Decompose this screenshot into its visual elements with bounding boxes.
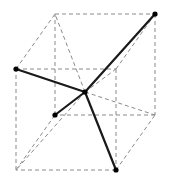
- guide-center-to-back-top-left: [55, 14, 85, 92]
- bond-center-to-back-bottom-left: [55, 92, 85, 115]
- atom-back-bottom-left: [52, 112, 57, 117]
- cell-edge-depth-top-left: [16, 14, 55, 69]
- atom-body-center: [82, 89, 87, 94]
- cell-edge-depth-bottom-left: [16, 115, 55, 170]
- bond-center-to-front-top-left: [16, 69, 85, 92]
- atom-back-top-right: [152, 11, 157, 16]
- lattice-diagram-svg: [0, 0, 169, 187]
- atom-front-top-left: [13, 66, 18, 71]
- guide-center-to-front-bottom-left: [16, 92, 85, 170]
- cell-edge-depth-bottom-right: [116, 115, 155, 170]
- cell-edge-depth-top-right: [116, 14, 155, 69]
- bond-center-to-back-top-right: [85, 14, 155, 92]
- guide-center-to-back-bottom-right: [85, 92, 155, 115]
- guide-center-to-front-top-right: [85, 69, 116, 92]
- atom-front-bottom-right: [113, 167, 118, 172]
- lattice-figure: [0, 0, 169, 187]
- bond-center-to-front-bottom-right: [85, 92, 116, 170]
